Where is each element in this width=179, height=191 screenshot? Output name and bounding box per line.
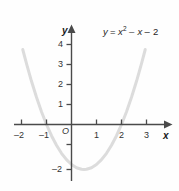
y-axis-arrow-icon — [68, 25, 76, 34]
x-tick-label: 3 — [144, 131, 149, 140]
parabola-curve — [23, 50, 146, 170]
x-tick-label: –1 — [39, 131, 49, 140]
y-tick-label: 4 — [58, 40, 63, 49]
equation-annotation: y=x2– x– 2 — [103, 26, 159, 37]
equation-term1-exponent: 2 — [123, 25, 127, 32]
x-axis-ticks — [22, 120, 147, 125]
y-axis-ticks — [67, 45, 72, 170]
x-tick-label: –2 — [14, 131, 24, 140]
y-tick-label: –2 — [52, 165, 62, 174]
x-axis-label: x — [163, 131, 169, 141]
equation-equals: = — [110, 26, 116, 37]
equation-term2: – x — [129, 26, 143, 37]
origin-label: O — [62, 127, 69, 136]
graph-figure: y x O –2 –1 1 2 3 4 3 2 1 –2 y=x2– x– 2 — [0, 0, 179, 191]
x-axis-arrow-icon — [164, 121, 173, 129]
y-tick-label: 2 — [58, 80, 63, 89]
y-tick-label: 1 — [58, 100, 63, 109]
equation-lhs: y — [103, 26, 108, 37]
equation-term3: – 2 — [144, 26, 158, 37]
x-tick-label: 1 — [94, 131, 99, 140]
x-tick-label: 2 — [119, 131, 124, 140]
y-tick-label: 3 — [58, 60, 63, 69]
y-axis-label: y — [62, 26, 68, 36]
